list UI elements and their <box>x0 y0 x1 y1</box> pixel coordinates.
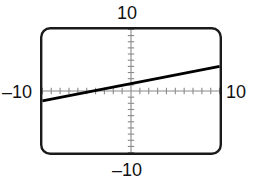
x-min-label: –10 <box>2 83 38 101</box>
y-max-label: 10 <box>0 4 254 22</box>
y-min-label: –10 <box>0 161 254 179</box>
graph-canvas <box>40 27 222 155</box>
calculator-graph-figure: 10 –10 –10 10 <box>0 0 254 183</box>
x-max-label: 10 <box>226 83 254 101</box>
calculator-screen <box>40 27 222 155</box>
